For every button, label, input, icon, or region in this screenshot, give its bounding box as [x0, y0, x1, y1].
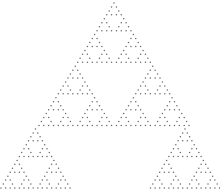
triangle-lower-right — [150, 128, 220, 188]
triangle-lower-left — [0, 128, 71, 188]
triangle-upper — [38, 2, 190, 126]
sierpinski-dot-canvas — [0, 0, 220, 191]
